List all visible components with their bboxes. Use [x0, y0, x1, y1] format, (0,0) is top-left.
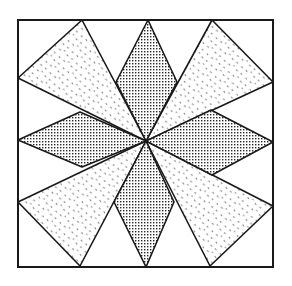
quilt-block-figure: [0, 0, 292, 286]
